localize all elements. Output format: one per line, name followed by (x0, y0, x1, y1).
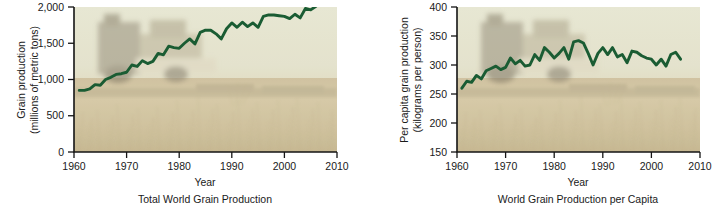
chart-background-photo (457, 7, 700, 152)
x-tick-label: 2000 (273, 160, 297, 172)
y-tick-label: 400 (429, 1, 447, 13)
y-tick-label: 1,000 (38, 73, 64, 85)
chart-panel-per-capita: 150 200 250 300 350 400 1960 1970 1980 1… (363, 0, 726, 211)
x-axis-ticks: 1960 1970 1980 1990 2000 2010 (62, 152, 349, 172)
y-tick-label: 1,500 (38, 37, 64, 49)
y-tick-label: 250 (429, 88, 447, 100)
x-tick-label: 1980 (543, 160, 567, 172)
x-tick-label: 1980 (168, 160, 192, 172)
y-axis-title-line1: Grain production (15, 41, 27, 119)
y-tick-label: 150 (429, 146, 447, 158)
y-tick-label: 300 (429, 59, 447, 71)
chart-world-grain-production-per-capita: 150 200 250 300 350 400 1960 1970 1980 1… (363, 0, 726, 211)
y-tick-label: 200 (429, 117, 447, 129)
x-tick-label: 1990 (591, 160, 615, 172)
figure-two-charts: 0 500 1,000 1,500 2,000 1960 1970 1980 1… (0, 0, 726, 211)
chart-panel-total-production: 0 500 1,000 1,500 2,000 1960 1970 1980 1… (0, 0, 363, 211)
x-tick-label: 1960 (62, 160, 86, 172)
chart-caption: World Grain Production per Capita (498, 193, 658, 205)
y-axis-ticks: 150 200 250 300 350 400 (429, 1, 457, 158)
x-tick-label: 2010 (688, 160, 712, 172)
x-axis-title: Year (194, 176, 216, 188)
y-tick-label: 0 (58, 146, 64, 158)
chart-caption: Total World Grain Production (138, 193, 272, 205)
y-tick-label: 350 (429, 30, 447, 42)
y-axis-title-line2: (millions of metric tons) (28, 26, 40, 134)
x-tick-label: 1970 (494, 160, 518, 172)
y-axis-ticks: 0 500 1,000 1,500 2,000 (38, 1, 74, 158)
x-tick-label: 1990 (220, 160, 244, 172)
y-tick-label: 2,000 (38, 1, 64, 13)
y-axis-title-line2: (kilograms per person) (411, 27, 423, 132)
y-axis-title-line1: Per capita grain production (398, 17, 410, 143)
x-tick-label: 2000 (640, 160, 664, 172)
x-axis-ticks: 1960 1970 1980 1990 2000 2010 (445, 152, 712, 172)
x-tick-label: 2010 (325, 160, 349, 172)
x-tick-label: 1960 (445, 160, 469, 172)
chart-total-world-grain-production: 0 500 1,000 1,500 2,000 1960 1970 1980 1… (0, 0, 363, 211)
y-tick-label: 500 (46, 109, 64, 121)
x-tick-label: 1970 (115, 160, 139, 172)
x-axis-title: Year (567, 176, 589, 188)
